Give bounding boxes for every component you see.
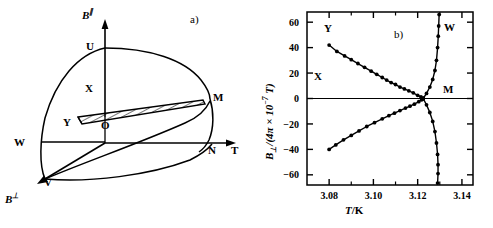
panel-a-3d-phase-diagram: B∥ B⊥ T a) U X Y M W V N O xyxy=(0,0,250,228)
data-point-upper-branch-Y-15 xyxy=(411,91,415,95)
y-tick-label-0: 60 xyxy=(289,17,299,28)
data-point-lower-branch-X-8 xyxy=(387,114,391,118)
data-point-vertical-branch-W-upper-1 xyxy=(425,92,429,96)
data-point-vertical-branch-M-lower-5 xyxy=(435,141,439,145)
data-point-vertical-branch-W-upper-5 xyxy=(435,58,439,62)
data-point-upper-branch-Y-12 xyxy=(398,85,402,89)
data-point-vertical-branch-M-lower-8 xyxy=(436,172,440,176)
panel-b-part-label: b) xyxy=(394,29,403,40)
data-point-upper-branch-Y-7 xyxy=(375,72,379,76)
axis-b-parallel xyxy=(102,19,109,117)
y-axis-label: B⊥/(4π × 10−7 T) xyxy=(262,83,277,160)
region-label-X: X xyxy=(314,71,322,82)
data-point-lower-branch-X-12 xyxy=(408,104,412,108)
point-label-V: V xyxy=(44,177,52,188)
data-point-lower-branch-X-9 xyxy=(393,111,397,115)
hatched-coexistence-slab xyxy=(78,100,205,124)
point-label-O: O xyxy=(101,120,110,131)
data-point-lower-branch-X-6 xyxy=(373,121,377,125)
data-point-lower-branch-X-5 xyxy=(365,125,369,129)
data-point-lower-branch-X-10 xyxy=(398,109,402,113)
point-label-Y: Y xyxy=(63,117,71,128)
data-point-vertical-branch-M-lower-0 xyxy=(421,97,425,101)
panel-b-bperp-vs-temperature-chart: 6040200−20−40−603.083.103.123.14 B⊥/(4π … xyxy=(250,0,493,228)
data-point-upper-branch-Y-13 xyxy=(402,87,406,91)
x-tick-label-0: 3.08 xyxy=(320,190,338,201)
data-point-upper-branch-Y-0 xyxy=(327,43,331,47)
point-label-X: X xyxy=(85,83,93,94)
data-point-vertical-branch-M-lower-9 xyxy=(436,181,440,185)
point-label-M: M xyxy=(213,92,223,103)
figure-phase-diagram: B∥ B⊥ T a) U X Y M W V N O 6040200−20−40… xyxy=(0,0,493,228)
data-point-lower-branch-X-3 xyxy=(349,133,353,137)
axis-label-b-parallel: B∥ xyxy=(82,8,93,21)
data-point-vertical-branch-W-upper-2 xyxy=(428,85,432,89)
panel-a-part-label: a) xyxy=(190,14,199,25)
data-point-upper-branch-Y-14 xyxy=(407,89,411,93)
region-label-W: W xyxy=(444,22,455,33)
data-point-lower-branch-X-0 xyxy=(327,147,331,151)
data-point-vertical-branch-W-upper-3 xyxy=(431,78,435,82)
data-point-lower-branch-X-1 xyxy=(334,143,338,147)
data-point-upper-branch-Y-4 xyxy=(356,62,360,66)
region-label-Y: Y xyxy=(324,23,332,34)
data-point-vertical-branch-M-lower-1 xyxy=(425,103,429,107)
data-point-vertical-branch-W-upper-4 xyxy=(433,69,437,73)
y-tick-label-4: −20 xyxy=(283,119,299,130)
axis-label-temperature: T xyxy=(231,145,238,156)
panel-a-drawing xyxy=(0,0,250,228)
data-point-lower-branch-X-11 xyxy=(404,106,408,110)
y-tick-label-5: −40 xyxy=(283,144,299,155)
data-point-upper-branch-Y-9 xyxy=(385,78,389,82)
x-axis-label: T/K xyxy=(345,205,363,216)
data-point-vertical-branch-W-upper-9 xyxy=(437,13,441,17)
data-point-upper-branch-Y-11 xyxy=(394,83,398,87)
x-tick-label-3: 3.14 xyxy=(453,190,471,201)
point-label-N: N xyxy=(208,145,216,156)
edge-V-N-front xyxy=(45,144,212,180)
y-tick-label-3: 0 xyxy=(294,93,299,104)
axis-temperature xyxy=(105,140,236,147)
data-point-vertical-branch-W-upper-7 xyxy=(436,34,440,38)
data-point-upper-branch-Y-8 xyxy=(380,76,384,80)
data-point-vertical-branch-M-lower-6 xyxy=(436,153,440,157)
data-point-vertical-branch-M-lower-7 xyxy=(436,163,440,167)
y-tick-label-1: 40 xyxy=(289,42,299,53)
axis-label-b-perp: B⊥ xyxy=(5,192,19,205)
data-point-lower-branch-X-4 xyxy=(357,129,361,133)
chart-plot-area: 6040200−20−40−603.083.103.123.14 xyxy=(250,0,493,228)
data-point-vertical-branch-M-lower-4 xyxy=(433,130,437,134)
data-point-upper-branch-Y-6 xyxy=(369,69,373,73)
data-point-upper-branch-Y-5 xyxy=(363,65,367,69)
data-point-lower-branch-X-7 xyxy=(380,117,384,121)
data-point-vertical-branch-W-upper-8 xyxy=(437,24,441,28)
x-tick-label-2: 3.12 xyxy=(409,190,427,201)
data-point-lower-branch-X-13 xyxy=(412,102,416,106)
data-point-lower-branch-X-2 xyxy=(342,138,346,142)
point-label-W: W xyxy=(14,137,25,148)
data-point-upper-branch-Y-16 xyxy=(416,93,420,97)
data-point-upper-branch-Y-2 xyxy=(343,54,347,58)
y-tick-label-2: 20 xyxy=(289,68,299,79)
data-point-vertical-branch-W-upper-6 xyxy=(436,46,440,50)
data-point-upper-branch-Y-3 xyxy=(349,58,353,62)
data-point-upper-branch-Y-1 xyxy=(335,50,339,54)
data-point-vertical-branch-M-lower-2 xyxy=(428,111,432,115)
region-label-M: M xyxy=(443,84,453,95)
y-tick-label-6: −60 xyxy=(283,169,299,180)
point-label-U: U xyxy=(86,41,94,52)
surface-edge-U-M xyxy=(105,48,210,99)
x-tick-label-1: 3.10 xyxy=(365,190,383,201)
data-point-vertical-branch-M-lower-3 xyxy=(431,120,435,124)
data-point-upper-branch-Y-10 xyxy=(389,81,393,85)
